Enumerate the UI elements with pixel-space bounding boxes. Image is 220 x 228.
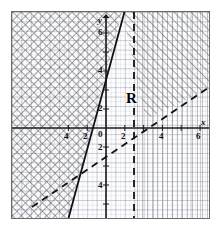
x-tick-label-4: 4 — [159, 132, 163, 141]
y-tick-label-neg2: 2 — [98, 143, 102, 152]
origin-label: 0 — [98, 130, 102, 139]
y-tick-label-4: 4 — [98, 66, 102, 75]
coordinate-plot-area: 4 2 2 4 6 0 6 4 2 2 4 x y R — [11, 11, 210, 219]
shaded-right-of-vertical-line — [134, 12, 210, 219]
y-tick-label-2: 2 — [98, 104, 102, 113]
x-axis-name: x — [201, 118, 206, 127]
x-tick-label-neg2: 2 — [83, 132, 87, 141]
y-tick-label-6: 6 — [98, 28, 102, 37]
x-axis-arrow — [209, 125, 210, 132]
y-tick-label-neg4: 4 — [98, 181, 102, 190]
x-tick-label-neg4: 4 — [64, 132, 68, 141]
graph-canvas — [12, 12, 210, 219]
x-tick-label-2: 2 — [121, 132, 125, 141]
graph-figure: 4 2 2 4 6 0 6 4 2 2 4 x y R — [0, 0, 220, 228]
y-axis-name: y — [98, 16, 102, 25]
region-label-R: R — [126, 91, 137, 106]
x-tick-label-6: 6 — [196, 132, 200, 141]
